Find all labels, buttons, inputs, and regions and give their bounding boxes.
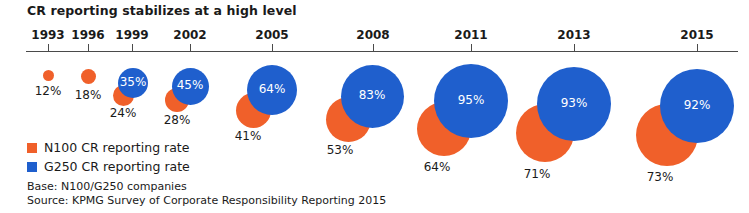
- value-label-n100-2005: 41%: [235, 129, 262, 143]
- axis-label-2005: 2005: [255, 28, 288, 42]
- axis-tick: [697, 44, 698, 52]
- value-label-g250-2013: 93%: [537, 96, 611, 110]
- bubble-g250-1999: 35%: [118, 68, 148, 98]
- axis-tick: [272, 44, 273, 52]
- axis-tick: [190, 44, 191, 52]
- value-label-g250-2008: 83%: [341, 88, 404, 102]
- bubble-g250-2013: 93%: [537, 67, 611, 141]
- axis-label-1993: 1993: [31, 28, 64, 42]
- bubble-n100-1993: [43, 70, 54, 81]
- value-label-g250-1999: 35%: [118, 75, 148, 89]
- axis-label-2002: 2002: [173, 28, 206, 42]
- footnote-source: Source: KPMG Survey of Corporate Respons…: [27, 194, 386, 208]
- axis-tick: [88, 44, 89, 52]
- footnotes: Base: N100/G250 companies Source: KPMG S…: [27, 180, 386, 208]
- value-label-g250-2015: 92%: [660, 98, 734, 112]
- legend-item-g250: G250 CR reporting rate: [27, 157, 190, 176]
- bubble-g250-2015: 92%: [660, 69, 734, 143]
- value-label-g250-2011: 95%: [434, 93, 508, 107]
- bubble-g250-2008: 83%: [341, 65, 404, 128]
- bubble-n100-1996: [81, 69, 96, 84]
- axis-label-2013: 2013: [557, 28, 590, 42]
- legend-label-g250: G250 CR reporting rate: [44, 159, 190, 174]
- footnote-base: Base: N100/G250 companies: [27, 180, 386, 194]
- axis-label-2008: 2008: [356, 28, 389, 42]
- value-label-n100-2002: 28%: [164, 113, 191, 127]
- value-label-n100-2008: 53%: [327, 143, 354, 157]
- legend-swatch-icon-g250: [27, 162, 37, 172]
- legend-label-n100: N100 CR reporting rate: [44, 140, 189, 155]
- value-label-n100-1993: 12%: [35, 84, 62, 98]
- axis-tick: [132, 44, 133, 52]
- value-label-n100-2015: 73%: [647, 170, 674, 184]
- legend-item-n100: N100 CR reporting rate: [27, 138, 190, 157]
- axis-tick: [471, 44, 472, 52]
- value-label-n100-1996: 18%: [75, 88, 102, 102]
- axis-label-2015: 2015: [680, 28, 713, 42]
- axis-tick: [48, 44, 49, 52]
- bubble-g250-2005: 64%: [247, 65, 297, 115]
- axis-label-1996: 1996: [71, 28, 104, 42]
- axis-tick: [373, 44, 374, 52]
- bubble-g250-2011: 95%: [434, 64, 508, 138]
- page-title: CR reporting stabilizes at a high level: [27, 3, 297, 18]
- value-label-n100-1999: 24%: [110, 106, 137, 120]
- value-label-n100-2011: 64%: [424, 160, 451, 174]
- value-label-g250-2005: 64%: [247, 82, 297, 96]
- axis-label-1999: 1999: [115, 28, 148, 42]
- bubble-chart-figure: CR reporting stabilizes at a high level …: [0, 0, 749, 213]
- value-label-g250-2002: 45%: [172, 78, 209, 92]
- legend-swatch-icon-n100: [27, 143, 37, 153]
- legend: N100 CR reporting rate G250 CR reporting…: [27, 138, 190, 176]
- bubble-g250-2002: 45%: [172, 68, 209, 105]
- axis-tick: [574, 44, 575, 52]
- value-label-n100-2013: 71%: [524, 167, 551, 181]
- axis-label-2011: 2011: [454, 28, 487, 42]
